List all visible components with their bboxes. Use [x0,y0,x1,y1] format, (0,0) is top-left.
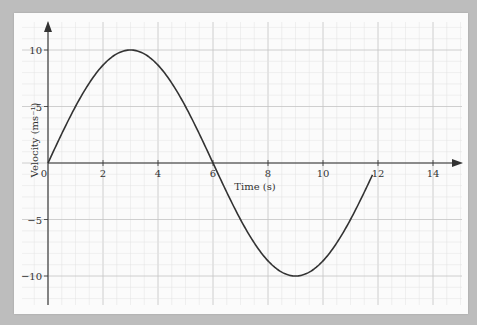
x-tick-label: 2 [100,168,106,179]
x-tick-label: 0 [41,168,47,179]
y-tick-label: 10 [29,45,42,56]
x-axis-label: Time (s) [234,181,275,192]
velocity-time-chart: 02468101214 105−5−10 Time (s) Velocity (… [0,0,477,325]
y-axis-label: Velocity (ms⁻¹) [29,103,40,179]
x-tick-label: 4 [155,168,161,179]
y-tick-label: −10 [21,271,42,282]
y-tick-label: −5 [27,215,42,226]
x-tick-label: 10 [317,168,330,179]
y-axis-arrow-icon [44,21,52,32]
x-axis-arrow-icon [452,159,463,167]
x-tick-label: 12 [372,168,385,179]
axes [44,21,463,305]
x-tick-label: 14 [427,168,440,179]
x-tick-label: 8 [265,168,271,179]
chart-figure: 02468101214 105−5−10 Time (s) Velocity (… [0,0,477,325]
